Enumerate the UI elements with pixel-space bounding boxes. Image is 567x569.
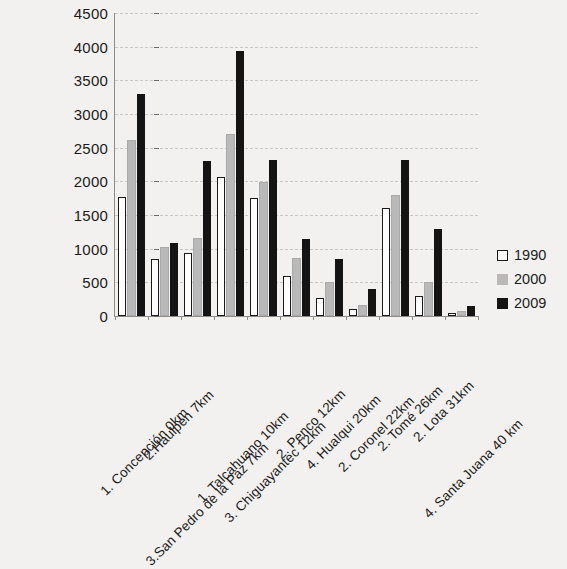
legend-swatch-2000-icon (497, 274, 508, 285)
legend-item[interactable]: 2009 (497, 291, 565, 315)
bar[interactable] (259, 182, 267, 316)
x-axis-tick-label: 4. Santa Juana 40 km (420, 416, 525, 521)
bar[interactable] (349, 309, 357, 316)
bar[interactable] (269, 160, 277, 316)
bar-group (379, 13, 412, 316)
legend: 199020002009 (497, 243, 565, 315)
bar[interactable] (203, 161, 211, 316)
x-axis-baseline (115, 316, 478, 317)
bar[interactable] (250, 198, 258, 317)
bar-group (214, 13, 247, 316)
y-axis-tick-label: 2500 (48, 139, 108, 156)
bar[interactable] (283, 276, 291, 316)
bar[interactable] (118, 197, 126, 316)
bar[interactable] (236, 51, 244, 316)
legend-item-label: 2000 (514, 271, 546, 287)
y-axis-tick-label: 1500 (48, 207, 108, 224)
y-axis-tick-label: 500 (48, 274, 108, 291)
legend-item-label: 2009 (514, 295, 546, 311)
y-axis-tick-label: 4500 (48, 5, 108, 22)
bar-group (412, 13, 445, 316)
bar[interactable] (368, 289, 376, 316)
bar[interactable] (424, 282, 432, 316)
bar-group (280, 13, 313, 316)
bar[interactable] (316, 298, 324, 316)
bar[interactable] (193, 238, 201, 316)
bar-group (247, 13, 280, 316)
y-axis-tick-label: 1000 (48, 240, 108, 257)
bar[interactable] (226, 134, 234, 316)
bar[interactable] (434, 229, 442, 316)
y-axis-tick-label: 3500 (48, 72, 108, 89)
y-axis-tick-label: 3000 (48, 106, 108, 123)
bar[interactable] (391, 195, 399, 316)
bar[interactable] (151, 259, 159, 316)
bar[interactable] (467, 306, 475, 316)
bar[interactable] (415, 296, 423, 316)
bar[interactable] (137, 94, 145, 316)
bar-group (313, 13, 346, 316)
bar[interactable] (448, 313, 456, 316)
bar[interactable] (382, 208, 390, 316)
legend-swatch-2009-icon (497, 298, 508, 309)
bars-layer (115, 13, 478, 316)
x-axis-tick-label: 2.Haulpén 7km (140, 387, 216, 463)
bar-group (115, 13, 148, 316)
x-axis-tick-mark (478, 316, 479, 320)
legend-item-label: 1990 (514, 247, 546, 263)
bar-group (148, 13, 181, 316)
bar[interactable] (217, 177, 225, 316)
bar[interactable] (292, 258, 300, 316)
bar[interactable] (127, 140, 135, 316)
bar[interactable] (184, 253, 192, 316)
bar[interactable] (302, 239, 310, 316)
y-axis-tick-mark (154, 316, 159, 317)
x-axis-tick-label: 1. Talcahuano 10km (194, 409, 291, 506)
legend-item[interactable]: 1990 (497, 243, 565, 267)
bar[interactable] (401, 160, 409, 316)
bar-group (181, 13, 214, 316)
bar[interactable] (170, 243, 178, 316)
y-axis-tick-labels: 050010001500200025003000350040004500 (40, 13, 108, 316)
legend-item[interactable]: 2000 (497, 267, 565, 291)
bar[interactable] (160, 247, 168, 316)
legend-swatch-1990-icon (497, 250, 508, 261)
y-axis-tick-label: 2000 (48, 173, 108, 190)
bar-group (346, 13, 379, 316)
bar[interactable] (358, 305, 366, 316)
bar-group (445, 13, 478, 316)
y-axis-tick-label: 0 (48, 308, 108, 325)
bar[interactable] (325, 282, 333, 316)
y-axis-tick-label: 4000 (48, 38, 108, 55)
bar[interactable] (457, 311, 465, 316)
bar[interactable] (335, 259, 343, 316)
